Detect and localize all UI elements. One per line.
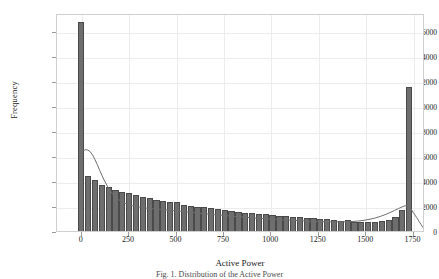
plot-area <box>56 14 424 232</box>
kde-curve <box>57 15 424 232</box>
x-tick-mark <box>270 232 271 236</box>
x-axis-label: Active Power <box>56 258 424 268</box>
x-tick-label: 0 <box>59 235 103 244</box>
x-tick-mark <box>413 232 414 236</box>
x-tick-mark <box>318 232 319 236</box>
x-tick-label: 250 <box>106 235 150 244</box>
y-axis-label: Frequency <box>9 60 19 140</box>
x-tick-label: 1500 <box>343 235 387 244</box>
x-tick-label: 1000 <box>248 235 292 244</box>
x-tick-label: 1750 <box>391 235 435 244</box>
x-tick-mark <box>223 232 224 236</box>
figure-caption: Fig. 1. Distribution of the Active Power <box>0 270 439 279</box>
x-tick-mark <box>365 232 366 236</box>
x-tick-mark <box>81 232 82 236</box>
x-tick-label: 500 <box>154 235 198 244</box>
x-tick-label: 750 <box>201 235 245 244</box>
x-tick-mark <box>176 232 177 236</box>
x-tick-mark <box>128 232 129 236</box>
y-tick-mark <box>52 232 56 233</box>
x-tick-label: 1250 <box>296 235 340 244</box>
